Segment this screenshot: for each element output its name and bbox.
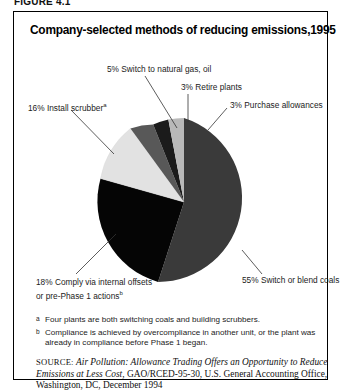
footnote-marker-a-ref: a — [103, 102, 106, 108]
figure-box: Company-selected methods of reducing emi… — [13, 11, 328, 380]
slice-label-natural-gas: 5% Switch to natural gas, oil — [107, 64, 211, 75]
footnote-b: b Compliance is achieved by overcomplian… — [36, 328, 336, 349]
source-citation: SOURCE: Air Pollution: Allowance Trading… — [36, 357, 332, 392]
footnote-b-text: Compliance is achieved by overcompliance… — [45, 328, 315, 348]
footnote-a: a Four plants are both switching coals a… — [36, 315, 336, 326]
leader-line-comply — [76, 234, 116, 274]
slice-label-comply-line2: or pre-Phase 1 actions — [36, 290, 119, 300]
footnote-b-marker: b — [36, 327, 40, 338]
slice-label-install-scrubber-text: 16% Install scrubber — [28, 103, 103, 113]
leader-line-switch-coals — [242, 250, 262, 274]
pie-chart — [14, 12, 344, 312]
footnotes: a Four plants are both switching coals a… — [36, 315, 336, 351]
leader-line-natural-gas — [145, 76, 177, 128]
leader-line-purchase-allowances — [208, 108, 227, 130]
footnote-marker-b-ref: b — [119, 290, 122, 296]
source-keyword: SOURCE: — [36, 357, 74, 367]
slice-label-install-scrubber: 16% Install scrubbera — [28, 100, 107, 113]
slice-label-comply-offsets: 18% Comply via internal offsetsor pre-Ph… — [36, 277, 152, 301]
slice-label-switch-blend-coals: 55% Switch or blend coals — [242, 275, 339, 286]
footnote-a-text: Four plants are both switching coals and… — [45, 315, 260, 324]
figure-number-label: FIGURE 4.1 — [14, 0, 70, 7]
slice-label-retire-plants: 3% Retire plants — [181, 82, 242, 93]
slice-label-purchase-allowances: 3% Purchase allowances — [230, 100, 323, 111]
leader-line-install-scrubber — [71, 110, 114, 154]
slice-label-comply-line1: 18% Comply via internal offsets — [36, 277, 152, 287]
footnote-a-marker: a — [36, 314, 40, 325]
